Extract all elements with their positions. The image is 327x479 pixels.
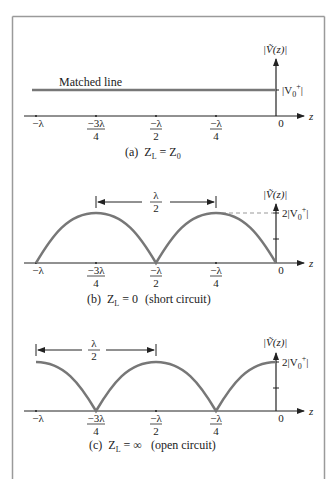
- level-label: 2|V0+|: [282, 354, 308, 371]
- x-axis-label: z: [308, 405, 314, 417]
- panel-c-caption: (c)ZL = ∞(open circuit): [89, 438, 216, 454]
- svg-text:−3λ: −3λ: [87, 412, 105, 424]
- panel-a-matched-line: Matched line |Ṽ(z)| |V0+| z −λ −3λ 4 −λ …: [24, 43, 314, 161]
- x-tick-labels: −λ −3λ 4 −λ 2 −λ 4 0: [32, 264, 284, 289]
- level-label: |V0+|: [282, 82, 303, 99]
- matched-line-label: Matched line: [59, 75, 122, 89]
- svg-text:4: 4: [213, 130, 219, 142]
- svg-text:−λ: −λ: [32, 412, 44, 424]
- half-wavelength-dimension: λ 2: [96, 189, 216, 214]
- x-axis-label: z: [308, 110, 314, 122]
- x-tick-labels: −λ −3λ 4 −λ 2 −λ 4 0: [32, 117, 284, 142]
- svg-text:−λ: −λ: [32, 117, 44, 129]
- figure-canvas: Matched line |Ṽ(z)| |V0+| z −λ −3λ 4 −λ …: [0, 0, 327, 479]
- panel-b-short-circuit: λ 2 |Ṽ(z)| 2|V0+| z −λ −3λ 4 −λ 2 −λ 4 0…: [24, 188, 314, 308]
- svg-text:2: 2: [153, 277, 159, 289]
- standing-wave-figure: Matched line |Ṽ(z)| |V0+| z −λ −3λ 4 −λ …: [0, 0, 327, 479]
- x-axis-label: z: [308, 257, 314, 269]
- panel-b-caption: (b)ZL = 0(short circuit): [87, 292, 211, 308]
- svg-text:−λ: −λ: [32, 264, 44, 276]
- svg-text:−λ: −λ: [150, 117, 162, 129]
- svg-text:−λ: −λ: [210, 412, 222, 424]
- svg-text:−λ: −λ: [210, 264, 222, 276]
- svg-text:4: 4: [93, 277, 99, 289]
- svg-text:λ: λ: [91, 337, 97, 349]
- svg-text:2: 2: [153, 202, 159, 214]
- svg-text:2: 2: [153, 425, 159, 437]
- standing-wave-curve: [36, 213, 276, 263]
- svg-text:4: 4: [213, 277, 219, 289]
- svg-text:4: 4: [213, 425, 219, 437]
- svg-text:λ: λ: [153, 189, 159, 201]
- y-axis-label: |Ṽ(z)|: [263, 188, 287, 201]
- panel-c-open-circuit: λ 2 |Ṽ(z)| 2|V0+| z −λ −3λ 4 −λ 2 −λ 4 0…: [24, 336, 314, 454]
- svg-text:0: 0: [278, 412, 284, 424]
- svg-text:−3λ: −3λ: [87, 264, 105, 276]
- svg-text:0: 0: [278, 117, 284, 129]
- y-axis-label: |Ṽ(z)|: [263, 43, 287, 56]
- svg-text:4: 4: [93, 130, 99, 142]
- svg-text:2: 2: [91, 350, 97, 362]
- half-wavelength-dimension: λ 2: [36, 337, 156, 362]
- y-axis-label: |Ṽ(z)|: [263, 336, 287, 349]
- svg-text:−3λ: −3λ: [87, 117, 105, 129]
- svg-text:−λ: −λ: [210, 117, 222, 129]
- svg-text:4: 4: [93, 425, 99, 437]
- x-tick-labels: −λ −3λ 4 −λ 2 −λ 4 0: [32, 412, 284, 437]
- svg-text:0: 0: [278, 264, 284, 276]
- svg-text:2: 2: [153, 130, 159, 142]
- svg-text:−λ: −λ: [150, 412, 162, 424]
- svg-text:−λ: −λ: [150, 264, 162, 276]
- panel-a-caption: (a)ZL = Z0: [125, 145, 181, 161]
- level-label: 2|V0+|: [282, 205, 308, 222]
- standing-wave-curve: [36, 362, 276, 411]
